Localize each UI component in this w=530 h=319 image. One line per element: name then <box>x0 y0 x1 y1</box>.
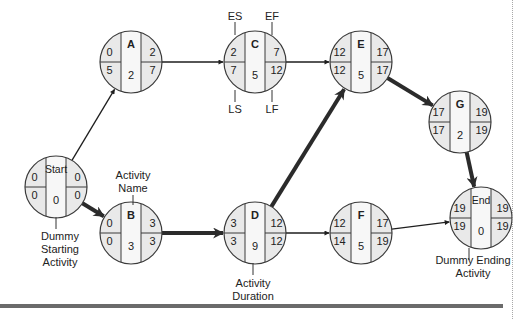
edge-start-to-b-critical <box>82 203 103 216</box>
label-activity-name-2: Name <box>118 182 147 194</box>
annotation-activity-name: Activity Name <box>116 169 151 205</box>
activity-duration: 3 <box>128 240 134 252</box>
early-finish-value: 3 <box>149 217 155 229</box>
activity-name: G <box>456 98 465 110</box>
label-dummy-end-1: Dummy Ending <box>435 254 510 266</box>
node-d: 312312D9 <box>224 202 286 264</box>
edge-start-to-a <box>72 89 115 160</box>
activity-name: C <box>251 38 259 50</box>
late-start-value: 0 <box>106 235 112 247</box>
activity-name: E <box>357 38 364 50</box>
late-start-value: 17 <box>432 124 444 136</box>
node-a: 0257A2 <box>100 31 162 93</box>
early-start-value: 19 <box>453 202 465 214</box>
label-dummy-start-2: Starting <box>41 243 79 255</box>
activity-duration: 0 <box>478 225 484 237</box>
late-finish-value: 0 <box>74 189 80 201</box>
edge-f-to-end <box>392 222 449 229</box>
activity-duration: 5 <box>358 69 364 81</box>
late-start-value: 0 <box>31 189 37 201</box>
early-start-value: 12 <box>333 46 345 58</box>
late-start-value: 3 <box>230 235 236 247</box>
nodes-layer: 0000Start00257A20303B327712C5312312D9121… <box>25 31 512 264</box>
early-finish-value: 17 <box>376 217 388 229</box>
label-activity-duration-2: Duration <box>232 290 274 302</box>
activity-duration: 5 <box>358 240 364 252</box>
early-start-value: 2 <box>230 46 236 58</box>
activity-name: Start <box>45 163 67 175</box>
early-start-value: 12 <box>333 217 345 229</box>
label-activity-duration-1: Activity <box>236 277 271 289</box>
early-start-value: 0 <box>106 46 112 58</box>
annotation-ls: LS <box>228 90 241 115</box>
early-start-value: 0 <box>31 171 37 183</box>
label-es: ES <box>228 10 243 22</box>
late-finish-value: 12 <box>270 235 282 247</box>
annotation-dummy-start: Dummy Starting Activity <box>41 217 79 268</box>
early-finish-value: 12 <box>270 217 282 229</box>
edge-d-to-e-critical <box>271 89 344 206</box>
label-ls: LS <box>228 103 241 115</box>
annotation-es: ES <box>228 10 243 35</box>
late-start-value: 14 <box>333 235 345 247</box>
late-finish-value: 7 <box>149 64 155 76</box>
late-finish-value: 12 <box>270 64 282 76</box>
annotation-activity-duration: Activity Duration <box>232 263 274 302</box>
edge-e-to-g-critical <box>388 78 433 105</box>
early-start-value: 3 <box>230 217 236 229</box>
node-b: 0303B3 <box>100 202 162 264</box>
edge-g-to-end-critical <box>467 152 475 186</box>
label-activity-name-1: Activity <box>116 169 151 181</box>
bottom-divider <box>0 304 503 308</box>
activity-name: End <box>472 194 491 206</box>
late-finish-value: 3 <box>149 235 155 247</box>
late-finish-value: 19 <box>475 124 487 136</box>
early-start-value: 0 <box>106 217 112 229</box>
label-dummy-start-1: Dummy <box>41 230 79 242</box>
activity-name: A <box>127 38 135 50</box>
label-dummy-end-2: Activity <box>456 267 491 279</box>
early-finish-value: 2 <box>149 46 155 58</box>
activity-name: B <box>127 209 135 221</box>
early-start-value: 17 <box>432 106 444 118</box>
network-diagram-svg: 0000Start00257A20303B327712C5312312D9121… <box>0 0 530 319</box>
activity-duration: 2 <box>457 129 463 141</box>
late-finish-value: 17 <box>376 64 388 76</box>
early-finish-value: 17 <box>376 46 388 58</box>
network-diagram: 0000Start00257A20303B327712C5312312D9121… <box>0 0 530 319</box>
node-end: 19191919End0 <box>450 187 512 249</box>
label-lf: LF <box>266 103 279 115</box>
activity-duration: 5 <box>252 69 258 81</box>
activity-name: D <box>251 209 259 221</box>
node-f: 12171419F5 <box>330 202 392 264</box>
early-finish-value: 19 <box>496 202 508 214</box>
activity-duration: 2 <box>128 69 134 81</box>
early-finish-value: 7 <box>273 46 279 58</box>
label-ef: EF <box>265 10 279 22</box>
annotation-dummy-end: Dummy Ending Activity <box>435 248 510 279</box>
late-start-value: 12 <box>333 64 345 76</box>
activity-name: F <box>358 209 365 221</box>
node-g: 17191719G2 <box>429 91 491 153</box>
early-finish-value: 0 <box>74 171 80 183</box>
late-start-value: 5 <box>106 64 112 76</box>
late-finish-value: 19 <box>496 220 508 232</box>
label-dummy-start-3: Activity <box>43 256 78 268</box>
annotation-lf: LF <box>266 90 279 115</box>
activity-duration: 9 <box>252 240 258 252</box>
early-finish-value: 19 <box>475 106 487 118</box>
node-e: 12171217E5 <box>330 31 392 93</box>
side-dotted-divider <box>512 0 513 319</box>
activity-duration: 0 <box>53 194 59 206</box>
late-start-value: 19 <box>453 220 465 232</box>
annotation-ef: EF <box>265 10 279 35</box>
late-start-value: 7 <box>230 64 236 76</box>
late-finish-value: 19 <box>376 235 388 247</box>
node-c: 27712C5 <box>224 31 286 93</box>
node-start: 0000Start0 <box>25 156 87 218</box>
